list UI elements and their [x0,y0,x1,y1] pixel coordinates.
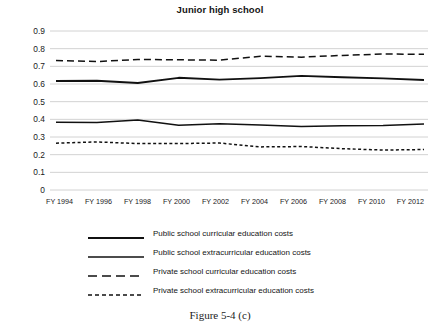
legend-item-label: Public school curricular education costs [153,229,293,239]
legend-item[interactable]: Private school curricular education cost… [88,262,388,281]
y-axis-tick-label: 0.9 [33,26,45,36]
y-axis-tick-label: 0.3 [33,132,45,142]
plot-area: 00.10.20.30.40.50.60.70.80.9 [0,22,440,197]
legend-line-swatch [88,286,144,296]
y-axis-tick-label: 0.6 [33,79,45,89]
chart-legend: Public school curricular education costs… [88,224,388,300]
x-axis-tick-label: FY 2012 [397,197,424,206]
y-axis-tick-label: 0.1 [33,167,45,177]
x-axis-tick-label: FY 2006 [280,197,307,206]
chart-title: Junior high school [0,4,440,15]
legend-item-label: Private school curricular education cost… [153,267,296,277]
y-axis-tick-label: 0.8 [33,44,45,54]
y-axis-tick-label: 0.7 [33,61,45,71]
legend-item-label: Private school extracurricular education… [153,286,314,296]
legend-item[interactable]: Public school extracurricular education … [88,243,388,262]
x-axis-tick-label: FY 2008 [319,197,346,206]
figure-container: Junior high school 00.10.20.30.40.50.60.… [0,0,440,333]
x-axis-tick-label: FY 2000 [163,197,190,206]
y-axis-tick-labels: 00.10.20.30.40.50.60.70.80.9 [33,26,45,195]
x-axis-tick-label: FY 2002 [202,197,229,206]
legend-line-swatch [88,229,144,239]
line-chart-svg: 00.10.20.30.40.50.60.70.80.9 [0,22,440,197]
legend-item[interactable]: Public school curricular education costs [88,224,388,243]
x-axis-tick-label: FY 1994 [46,197,73,206]
legend-item[interactable]: Private school extracurricular education… [88,281,388,300]
figure-caption: Figure 5-4 (c) [0,309,440,321]
series-line-1 [56,120,424,126]
series-line-0 [56,76,424,83]
legend-line-swatch [88,248,144,258]
y-axis-tick-label: 0.4 [33,114,45,124]
y-axis-tick-label: 0 [40,185,45,195]
legend-line-swatch [88,267,144,277]
x-axis-tick-label: FY 1998 [124,197,151,206]
legend-item-label: Public school extracurricular education … [153,248,311,258]
y-axis-tick-label: 0.5 [33,97,45,107]
x-axis-tick-label: FY 2010 [358,197,385,206]
gridlines [50,31,428,190]
y-axis-tick-label: 0.2 [33,150,45,160]
x-axis-tick-labels: FY 1994FY 1996FY 1998FY 2000FY 2002FY 20… [46,197,424,211]
x-axis-tick-label: FY 2004 [241,197,268,206]
series-line-3 [56,142,424,150]
series-line-2 [56,54,424,62]
x-axis-tick-label: FY 1996 [85,197,112,206]
